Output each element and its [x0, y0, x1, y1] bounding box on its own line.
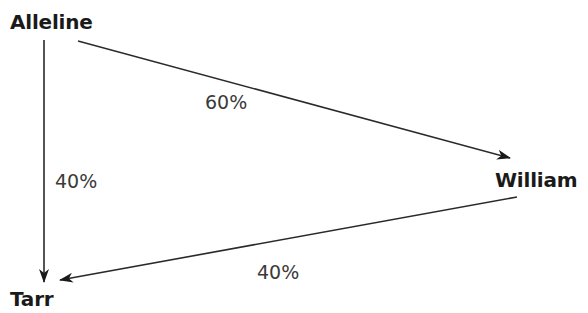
- node-william: William: [495, 168, 577, 192]
- edge-label-alleline-tarr: 40%: [55, 170, 97, 192]
- edge-alleline-william: [78, 41, 510, 158]
- edge-label-william-tarr: 40%: [257, 261, 299, 283]
- edge-label-alleline-william: 60%: [205, 91, 247, 113]
- node-tarr: Tarr: [10, 287, 54, 311]
- node-alleline: Alleline: [10, 10, 93, 34]
